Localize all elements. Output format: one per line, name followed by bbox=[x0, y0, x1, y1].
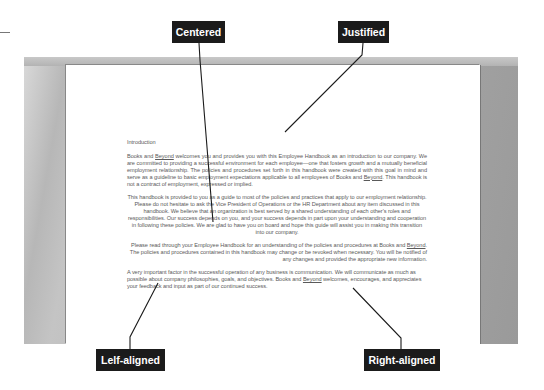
callout-left-aligned: Lelf-aligned bbox=[96, 349, 165, 371]
callout-right-aligned: Right-aligned bbox=[364, 349, 440, 371]
right-aligned-leader-line bbox=[353, 288, 401, 349]
callout-leader-lines bbox=[0, 0, 544, 390]
callout-justified: Justified bbox=[338, 21, 389, 43]
left-aligned-leader-line bbox=[130, 283, 158, 349]
centered-leader-line bbox=[199, 43, 213, 222]
callout-centered: Centered bbox=[172, 21, 225, 43]
justified-leader-line bbox=[285, 43, 363, 132]
